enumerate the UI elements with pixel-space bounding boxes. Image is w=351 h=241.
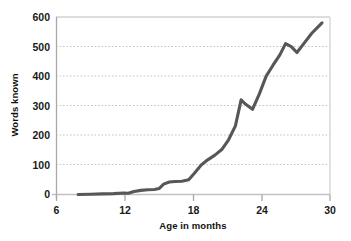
- x-axis-title: Age in months: [159, 220, 226, 231]
- y-tick-label-0: 0: [44, 188, 50, 200]
- y-tick-label-300: 300: [32, 100, 50, 112]
- x-tick-label-18: 18: [188, 204, 200, 216]
- x-tick-label-30: 30: [324, 204, 336, 216]
- chart-screenshot: 600 500 400 300 200 100 0 6 12 18 24 30 …: [0, 0, 351, 241]
- x-tick-labels: 6 12 18 24 30: [54, 204, 336, 216]
- y-tick-label-400: 400: [32, 70, 50, 82]
- line-chart: 600 500 400 300 200 100 0 6 12 18 24 30 …: [0, 0, 351, 241]
- y-tick-label-100: 100: [32, 159, 50, 171]
- x-tick-label-6: 6: [54, 204, 60, 216]
- y-tick-label-500: 500: [32, 41, 50, 53]
- y-tick-labels: 600 500 400 300 200 100 0: [32, 11, 50, 200]
- y-tick-label-200: 200: [32, 129, 50, 141]
- x-tick-label-24: 24: [256, 204, 268, 216]
- y-axis-title: Words known: [9, 73, 20, 136]
- data-series-words-known: [78, 23, 322, 195]
- x-tick-label-12: 12: [119, 204, 131, 216]
- gridlines: [56, 47, 330, 165]
- y-tick-label-600: 600: [32, 11, 50, 23]
